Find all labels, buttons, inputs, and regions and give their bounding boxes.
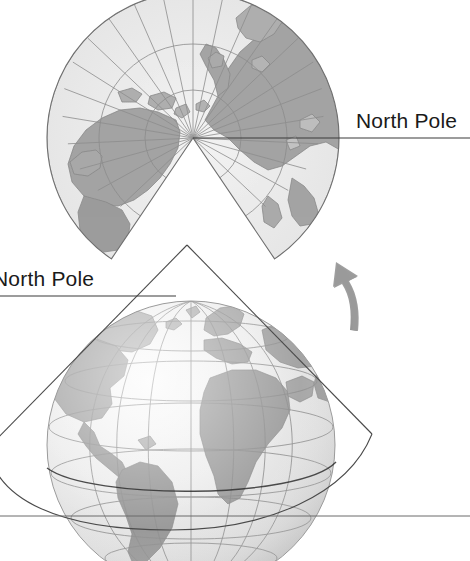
globe-shading: [47, 301, 335, 561]
north-pole-label-bottom: North Pole: [0, 268, 94, 289]
rotation-arrow-icon: [333, 262, 359, 331]
conic-projection-figure: North Pole North Pole: [0, 0, 470, 561]
north-pole-label-top: North Pole: [356, 110, 457, 131]
land-siberia-east: [344, 70, 404, 110]
globe-diagram: [0, 245, 372, 561]
conic-projection-map: [0, 0, 470, 284]
